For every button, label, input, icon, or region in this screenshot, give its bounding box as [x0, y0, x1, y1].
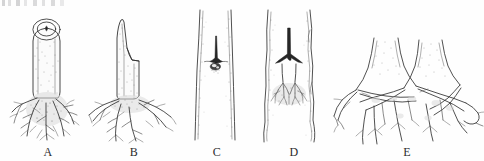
- bark-texture-e: [374, 42, 446, 77]
- panel-c-drawing: [184, 8, 250, 146]
- panel-b: B: [86, 8, 182, 161]
- bark-texture-c: [198, 18, 233, 137]
- panel-d-drawing: [252, 8, 336, 146]
- panel-b-drawing: [86, 8, 182, 146]
- panel-c: C: [184, 8, 250, 161]
- y-incision-d: [276, 28, 303, 63]
- panel-label-b: B: [86, 146, 182, 159]
- scan-artifact: [2, 0, 64, 6]
- panel-label-c: C: [184, 146, 250, 159]
- panel-e-drawing: [330, 8, 484, 146]
- panel-label-e: E: [330, 146, 484, 159]
- panel-label-d: D: [252, 146, 336, 159]
- panel-e: E: [330, 8, 484, 161]
- panel-d: D: [252, 8, 336, 161]
- panel-a-drawing: [6, 8, 90, 146]
- root-graft-network-e: [334, 85, 484, 144]
- bud-incision-c: [205, 36, 228, 63]
- panel-a: A: [6, 8, 90, 161]
- panel-label-a: A: [6, 146, 90, 159]
- figure-canvas: A: [0, 0, 484, 161]
